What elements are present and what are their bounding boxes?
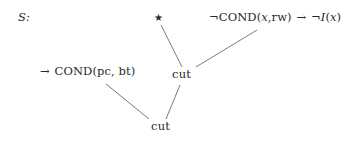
star-icon: ★ [154, 13, 163, 23]
clause-right-seg-1: x [261, 10, 268, 24]
cut-node-middle: cut [172, 69, 191, 81]
clause-right-seg-0: ¬COND( [209, 10, 261, 24]
clause-node-left: → COND(pc, bt) [39, 66, 135, 78]
edge-cut-middle-to-cut-bottom [166, 85, 180, 119]
proof-tree-diagram: S: ★ ¬COND(x,rw) → ¬I(x) → COND(pc, bt) … [0, 0, 361, 142]
clause-node-right: ¬COND(x,rw) → ¬I(x) [209, 12, 341, 24]
clause-right-seg-4: ¬ [307, 10, 321, 24]
clause-left-seg-0: → [39, 64, 51, 78]
clause-right-seg-3: → [295, 10, 307, 24]
clause-right-seg-7: x [330, 10, 337, 24]
edge-clause-right-to-cut-middle [196, 30, 257, 67]
edge-star-to-cut-middle [161, 25, 182, 67]
set-label: S: [18, 12, 30, 24]
clause-left-seg-1: COND(pc, bt) [51, 64, 136, 78]
cut-node-bottom: cut [151, 121, 170, 133]
edge-clause-left-to-cut-bottom [106, 84, 149, 119]
clause-right-seg-8: ) [337, 10, 342, 24]
clause-right-seg-2: ,rw) [268, 10, 296, 24]
